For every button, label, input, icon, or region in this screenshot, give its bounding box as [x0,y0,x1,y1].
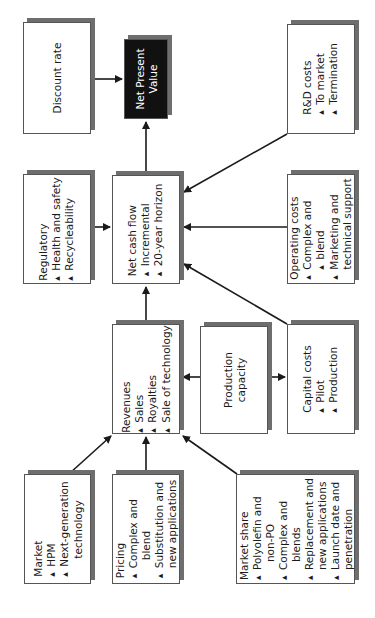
node-item: Complex and [126,480,140,578]
node-title: Net cash flow [126,183,139,276]
node-rd-costs: R&D costs To market Termination [287,24,355,134]
node-item: Next-generation [58,481,72,576]
node-title: capacity [234,352,247,408]
node-market-share: Market share Polyolefin and non-PO Compl… [236,474,355,584]
node-item-cont: technical support [341,178,354,279]
node-item: Sale of technology [159,325,173,433]
node-item: Royalties [146,325,160,433]
node-item-cont: blends [289,478,302,580]
node-title: Net Present [134,48,147,109]
node-item cont: blend [314,178,328,279]
node-item: Recycleability [63,177,77,280]
node-item: Termination [327,43,341,115]
node-title: Value [146,48,159,109]
node-item-cont: blend [140,480,153,578]
node-title: Discount rate [51,43,64,114]
node-title: Operating costs [288,178,301,279]
node-item-cont: new applications [166,480,179,578]
node-title: Pricing [114,480,127,578]
node-item: Complex and [276,478,290,580]
node-item: Incremental [139,183,153,276]
node-item-cont: penetration [341,478,354,580]
node-title: Capital costs [301,345,314,412]
node-item: Complex and [301,178,315,279]
node-item: HPM [44,481,58,576]
node-net-present-value: Net Present Value [124,39,168,119]
node-production-capacity: Production capacity [200,326,268,434]
node-item: Pilot [314,345,328,412]
node-item: Sales [132,325,146,433]
node-item: Launch date and [328,478,342,580]
node-discount-rate: Discount rate [23,22,91,134]
node-title: Revenues [120,325,133,433]
node-operating-costs: Operating costs Complex and blend Market… [287,174,355,284]
node-item: 20-year horizon [152,183,166,276]
node-item-cont: new applications [315,478,328,580]
node-item: Production [327,345,341,412]
node-title: Market share [237,478,250,580]
node-item: Health and safety [50,177,64,280]
node-item-cont: technology [71,481,84,576]
node-item: Polyolefin and [250,478,264,580]
node-capital-costs: Capital costs Pilot Production [287,324,355,434]
node-item: Replacement and [302,478,316,580]
node-title: Regulatory [37,177,50,280]
node-title: R&D costs [301,43,314,115]
node-revenues: Revenues Sales Royalties Sale of technol… [112,324,180,434]
node-title: Market [32,481,45,576]
node-regulatory: Regulatory Health and safety Recycleabil… [23,174,91,284]
node-item: To market [314,43,328,115]
node-title: Production [222,352,235,408]
node-market: Market HPM Next-generation technology [24,474,91,584]
node-item-cont: non-PO [263,478,276,580]
node-net-cash-flow: Net cash flow Incremental 20-year horizo… [112,175,180,284]
node-pricing: Pricing Complex and blend Substitution a… [112,474,180,584]
node-item: Marketing and [328,178,342,279]
node-item: Substitution and [152,480,166,578]
